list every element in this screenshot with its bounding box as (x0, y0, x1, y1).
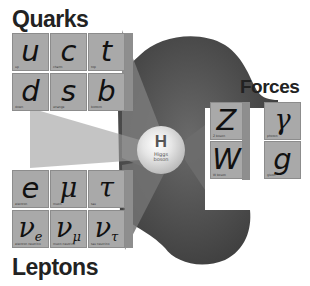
nu-glyph: ν (18, 212, 34, 243)
leptons-heading: Leptons (12, 254, 98, 281)
nu-glyph: ν (56, 212, 72, 243)
quark-tile-bottom: b bottom (88, 73, 125, 111)
leptons-grid-side (125, 170, 133, 248)
lepton-label: electron (15, 202, 27, 206)
quark-label: bottom (91, 105, 102, 109)
quark-label: strange (53, 105, 64, 109)
higgs-boson-sphere: H Higgs boson (137, 126, 185, 174)
higgs-label: Higgs boson (137, 152, 185, 162)
quark-label: up (15, 65, 19, 69)
quark-tile-top: t top (88, 33, 125, 71)
lepton-label: muon neutrino (53, 242, 75, 246)
lepton-tile-muon: μ muon (50, 170, 87, 208)
lepton-symbol: νμ (51, 209, 86, 256)
force-label: Z boson (213, 134, 225, 138)
lepton-symbol: ντ (89, 209, 124, 256)
quark-label: top (91, 65, 96, 69)
force-label: photon (267, 134, 278, 138)
quark-label: down (15, 105, 23, 109)
force-tile-photon: γ photon (264, 102, 301, 140)
higgs-symbol: H (137, 132, 185, 152)
forces-heading: Forces (240, 76, 299, 98)
force-label: gluon (267, 173, 275, 177)
force-tile-w-boson: W W boson (210, 141, 243, 179)
lepton-label: tau (91, 202, 96, 206)
quarks-grid-side (125, 33, 133, 111)
quarks-heading: Quarks (12, 6, 88, 33)
force-tile-z-boson: Z Z boson (210, 102, 243, 140)
higgs-label-line2: boson (137, 157, 185, 162)
quark-tile-down: d down (12, 73, 49, 111)
lepton-tile-electron-neutrino: νe electron neutrino (12, 210, 49, 248)
force-tile-gluon: g gluon (264, 141, 301, 179)
quark-tile-strange: s strange (50, 73, 87, 111)
quark-label: charm (53, 65, 63, 69)
quark-tile-charm: c charm (50, 33, 87, 71)
lepton-label: electron neutrino (15, 242, 41, 246)
lepton-label: muon (53, 202, 62, 206)
lepton-tile-muon-neutrino: νμ muon neutrino (50, 210, 87, 248)
lepton-tile-electron: e electron (12, 170, 49, 208)
lepton-label: tau neutrino (91, 242, 110, 246)
quark-tile-up: u up (12, 33, 49, 71)
force-label: W boson (213, 173, 226, 177)
forces-grid-side (242, 102, 250, 180)
lepton-tile-tau-neutrino: ντ tau neutrino (88, 210, 125, 248)
flavor-subscript: τ (111, 229, 118, 244)
lepton-tile-tau: τ tau (88, 170, 125, 208)
lepton-symbol: νe (13, 209, 48, 256)
nu-glyph: ν (95, 212, 111, 243)
